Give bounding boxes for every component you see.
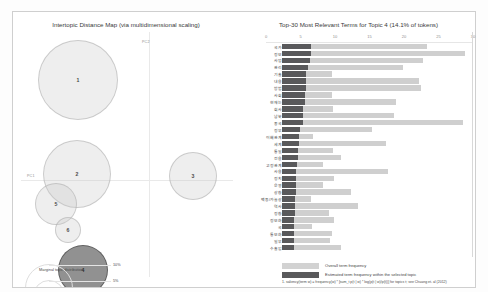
term-label: 정보 (241, 51, 282, 57)
bar-topic-frequency (282, 92, 305, 97)
term-row[interactable]: 상황 (241, 189, 476, 196)
term-row[interactable]: 역사 (241, 203, 476, 210)
mtd-tick-line-10% (49, 265, 111, 266)
topic-bubble-3[interactable]: 3 (169, 152, 217, 200)
term-row[interactable]: 수출입 (241, 244, 476, 251)
pyldavis-visualization: Intertopic Distance Map (via multidimens… (0, 0, 488, 302)
term-label: 사업 (241, 57, 282, 63)
term-label: 역사 (241, 203, 282, 209)
topic-bubble-1[interactable]: 1 (38, 40, 118, 120)
barchart-rows: 국가정보사업관리기술내용방법사회현재는회사남북중국정부이해관계세계통일전용고정관… (241, 43, 476, 251)
term-row[interactable]: 일부 (241, 237, 476, 244)
term-row[interactable]: 방법 (241, 85, 476, 92)
term-row[interactable]: 국가 (241, 43, 476, 50)
mtd-tick-label-10%: 10% (113, 263, 121, 267)
term-row[interactable]: 사용 (241, 168, 476, 175)
bar-topic-frequency (282, 85, 306, 90)
bar-topic-frequency (282, 99, 305, 104)
term-row[interactable]: 기술 (241, 71, 476, 78)
bar-topic-frequency (282, 127, 300, 132)
term-row[interactable]: 정보 (241, 50, 476, 57)
term-row[interactable]: 사업 (241, 57, 476, 64)
term-row[interactable]: 전용 (241, 154, 476, 161)
bar-topic-frequency (282, 44, 311, 49)
vertical-axis-line (149, 32, 150, 277)
term-label: 현재는 (241, 99, 282, 105)
bar-topic-frequency (282, 238, 294, 243)
barchart-title: Top-30 Most Relevant Terms for Topic 4 (… (241, 21, 476, 28)
term-row[interactable]: 사회 (241, 92, 476, 99)
map-plot-area[interactable]: PC2 PC1 123564 Marginal topic distributi… (21, 32, 233, 277)
term-label: 통일 (241, 148, 282, 154)
bar-topic-frequency (282, 176, 296, 181)
bar-topic-frequency (282, 182, 296, 187)
footnote-saliency: 1. saliency(term w) = frequency(w) * [su… (282, 280, 447, 284)
top-terms-barchart-panel: Top-30 Most Relevant Terms for Topic 4 (… (241, 12, 476, 287)
bar-topic-frequency (282, 71, 306, 76)
term-row[interactable]: 백동/가늘상 (241, 196, 476, 203)
bar-topic-frequency (282, 189, 296, 194)
bar-topic-frequency (282, 148, 298, 153)
bar-topic-frequency (282, 51, 311, 56)
axis-label-pc1: PC1 (27, 174, 35, 178)
term-row[interactable]: 국 (241, 223, 476, 230)
term-row[interactable]: 내용 (241, 78, 476, 85)
term-row[interactable]: 관리 (241, 64, 476, 71)
term-row[interactable]: 통일 (241, 147, 476, 154)
x-tick-15: 15 (367, 34, 371, 39)
bar-topic-frequency (282, 162, 297, 167)
topic-bubble-6[interactable]: 6 (55, 217, 81, 243)
bar-topic-frequency (282, 113, 303, 118)
term-row[interactable]: 운영 (241, 182, 476, 189)
bar-topic-frequency (282, 78, 306, 83)
term-label: 고정관계 (241, 162, 282, 168)
bar-topic-frequency (282, 203, 295, 208)
bar-topic-frequency (282, 224, 294, 229)
term-label: 일부 (241, 238, 282, 244)
x-tick-20: 20 (402, 34, 406, 39)
term-row[interactable]: 중국 (241, 119, 476, 126)
term-label: 이해관계 (241, 134, 282, 140)
term-row[interactable]: 세계 (241, 140, 476, 147)
term-label: 중국 (241, 120, 282, 126)
term-label: 회사 (241, 106, 282, 112)
term-row[interactable]: 고정관계 (241, 161, 476, 168)
bar-overall-frequency (282, 169, 388, 174)
term-label: 정보화 (241, 217, 282, 223)
bar-topic-frequency (282, 134, 299, 139)
term-row[interactable]: 정치 (241, 175, 476, 182)
topic-bubble-label: 6 (67, 227, 70, 233)
barchart-x-axis: 051015202530 (266, 32, 473, 42)
term-row[interactable]: 정황 (241, 210, 476, 217)
term-row[interactable]: 통보화 (241, 230, 476, 237)
term-label: 관리 (241, 64, 282, 70)
mtd-tick-label-5%: 5% (113, 279, 119, 283)
term-label: 백동/가늘상 (241, 196, 282, 202)
bar-topic-frequency (282, 169, 296, 174)
term-label: 국 (241, 224, 282, 230)
topic-bubble-label: 2 (76, 171, 79, 177)
term-label: 세계 (241, 141, 282, 147)
term-row[interactable]: 정보화 (241, 216, 476, 223)
legend-row-topic: Estimated term frequency within the sele… (241, 271, 476, 280)
legend-swatch-overall (282, 263, 319, 269)
term-label: 수출입 (241, 245, 282, 251)
term-label: 남북 (241, 113, 282, 119)
term-label: 전용 (241, 155, 282, 161)
term-label: 방법 (241, 85, 282, 91)
intertopic-distance-map-panel: Intertopic Distance Map (via multidimens… (13, 12, 239, 287)
term-row[interactable]: 남북 (241, 112, 476, 119)
barchart-legend: Overall term frequency Estimated term fr… (241, 262, 476, 280)
x-tick-25: 25 (436, 34, 440, 39)
bar-topic-frequency (282, 217, 294, 222)
term-row[interactable]: 이해관계 (241, 133, 476, 140)
legend-row-overall: Overall term frequency (241, 262, 476, 271)
bar-topic-frequency (282, 245, 294, 250)
term-label: 상황 (241, 189, 282, 195)
legend-label-topic: Estimated term frequency within the sele… (325, 272, 416, 277)
term-row[interactable]: 회사 (241, 105, 476, 112)
term-row[interactable]: 정부 (241, 126, 476, 133)
term-row[interactable]: 현재는 (241, 99, 476, 106)
topic-bubble-label: 1 (77, 77, 80, 83)
bar-overall-frequency (282, 120, 463, 125)
